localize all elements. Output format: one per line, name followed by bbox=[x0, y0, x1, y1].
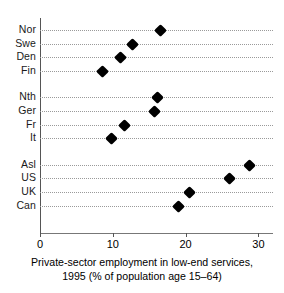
category-label-ger: Ger bbox=[18, 104, 36, 117]
dot-plot-chart: NorSweDenFinNthGerFrItAslUSUKCan 0102030… bbox=[0, 0, 284, 293]
data-point-it bbox=[105, 132, 118, 145]
gridline bbox=[40, 206, 273, 208]
gridline bbox=[40, 138, 273, 140]
x-tick-label: 10 bbox=[107, 238, 119, 250]
data-point-ger bbox=[148, 105, 161, 118]
x-tick-label: 0 bbox=[37, 238, 43, 250]
data-row: Den bbox=[40, 51, 273, 64]
data-point-nor bbox=[154, 24, 167, 37]
category-label-swe: Swe bbox=[15, 37, 36, 50]
category-label-den: Den bbox=[16, 50, 36, 63]
category-label-fin: Fin bbox=[21, 64, 36, 77]
x-tick bbox=[258, 233, 259, 237]
data-row: Asl bbox=[40, 159, 273, 172]
caption-line-2: 1995 (% of population age 15–64) bbox=[0, 269, 284, 283]
x-tick-label: 30 bbox=[252, 238, 264, 250]
gridline bbox=[40, 178, 273, 180]
data-point-den bbox=[114, 51, 127, 64]
category-label-fr: Fr bbox=[26, 118, 36, 131]
x-tick bbox=[113, 233, 114, 237]
data-point-fin bbox=[96, 65, 109, 78]
gridline bbox=[40, 71, 273, 73]
data-point-nth bbox=[151, 92, 164, 105]
x-axis-ticks: 0102030 bbox=[40, 233, 273, 253]
gridline bbox=[40, 44, 273, 46]
data-point-swe bbox=[126, 38, 139, 51]
x-axis-caption: Private-sector employment in low-end ser… bbox=[0, 255, 284, 283]
x-tick-label: 20 bbox=[180, 238, 192, 250]
category-label-can: Can bbox=[16, 199, 36, 212]
data-row: UK bbox=[40, 186, 273, 199]
data-point-fr bbox=[118, 119, 131, 132]
data-row: It bbox=[40, 132, 273, 145]
category-label-nth: Nth bbox=[19, 90, 36, 103]
data-point-can bbox=[172, 200, 185, 213]
category-label-nor: Nor bbox=[19, 23, 36, 36]
category-label-us: US bbox=[21, 171, 36, 184]
data-row: US bbox=[40, 172, 273, 185]
gridline bbox=[40, 192, 273, 194]
category-label-asl: Asl bbox=[21, 158, 36, 171]
x-tick bbox=[186, 233, 187, 237]
gridline bbox=[40, 125, 273, 127]
data-row: Can bbox=[40, 200, 273, 213]
data-row: Swe bbox=[40, 38, 273, 51]
category-label-uk: UK bbox=[21, 185, 36, 198]
data-point-uk bbox=[183, 186, 196, 199]
plot-area: NorSweDenFinNthGerFrItAslUSUKCan bbox=[40, 18, 273, 232]
caption-line-1: Private-sector employment in low-end ser… bbox=[0, 255, 284, 269]
gridline bbox=[40, 57, 273, 59]
data-row: Ger bbox=[40, 105, 273, 118]
category-label-it: It bbox=[30, 131, 36, 144]
data-row: Nth bbox=[40, 91, 273, 104]
gridline bbox=[40, 165, 273, 167]
data-row: Fin bbox=[40, 65, 273, 78]
data-row: Fr bbox=[40, 119, 273, 132]
data-point-us bbox=[223, 173, 236, 186]
data-point-asl bbox=[243, 159, 256, 172]
data-row: Nor bbox=[40, 24, 273, 37]
x-tick bbox=[40, 233, 41, 237]
